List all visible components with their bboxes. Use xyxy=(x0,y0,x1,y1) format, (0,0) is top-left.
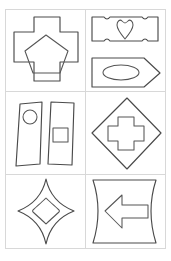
right-strip-shape xyxy=(48,102,74,165)
panel-5-figure xyxy=(6,175,86,248)
panel-1-figure xyxy=(6,10,86,92)
circle-shape xyxy=(23,110,37,124)
heart-icon xyxy=(117,20,133,39)
panel-cross-pentagon[interactable] xyxy=(6,10,86,92)
four-pointed-star-shape xyxy=(18,179,74,244)
panel-banner-left-arrow[interactable] xyxy=(86,175,165,248)
panel-star-diamond[interactable] xyxy=(6,175,86,248)
panel-3-figure xyxy=(6,92,86,175)
inner-cross-shape xyxy=(108,117,144,150)
panel-6-figure xyxy=(86,175,165,248)
left-arrow-icon xyxy=(105,195,148,228)
panel-ticket-heart-arrowbar[interactable] xyxy=(86,10,165,92)
ellipse-shape xyxy=(103,65,139,80)
inner-diamond-shape xyxy=(33,198,60,224)
worksheet-sheet xyxy=(0,0,171,261)
left-strip-shape xyxy=(16,102,42,166)
concave-corner-rectangle-shape xyxy=(92,17,158,41)
arrow-bar-shape xyxy=(92,58,160,87)
diamond-shape xyxy=(92,98,161,169)
concave-sided-banner-shape xyxy=(93,180,156,243)
shape-grid xyxy=(5,9,166,249)
panel-diamond-cross[interactable] xyxy=(86,92,165,175)
pentagon-shape xyxy=(25,35,68,73)
panel-2-figure xyxy=(86,10,165,92)
panel-strips-circle-square[interactable] xyxy=(6,92,86,175)
cross-shape xyxy=(14,17,78,81)
square-shape xyxy=(53,128,68,142)
panel-4-figure xyxy=(86,92,165,175)
